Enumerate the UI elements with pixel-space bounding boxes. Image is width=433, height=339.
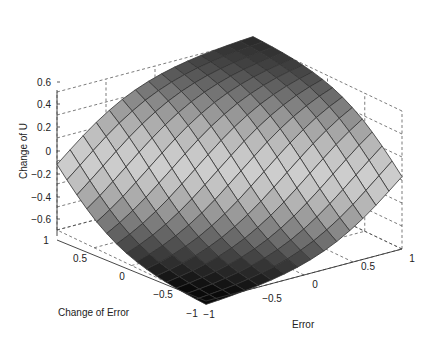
- x-tick-label: −0.5: [262, 293, 282, 304]
- z-tick-label: −0.4: [31, 192, 51, 203]
- z-tick-label: 0.2: [37, 122, 51, 133]
- surface-plot: −0.6−0.4−0.200.20.40.6−1−0.500.51−1−0.50…: [0, 0, 433, 339]
- x-tick-label: 1: [409, 253, 415, 264]
- z-tick-label: 0: [45, 146, 51, 157]
- y-tick-label: −0.5: [153, 289, 173, 300]
- y-axis-label: Change of Error: [58, 307, 130, 318]
- z-tick-label: −0.6: [31, 214, 51, 225]
- y-tick-label: −1: [186, 308, 198, 319]
- y-tick-label: 1: [43, 235, 49, 246]
- z-tick-label: 0.4: [37, 99, 51, 110]
- y-tick-label: 0: [119, 271, 125, 282]
- y-tick-label: 0.5: [73, 253, 87, 264]
- z-tick-label: −0.2: [31, 169, 51, 180]
- z-axis-label: Change of U: [18, 123, 29, 179]
- x-tick-label: 0: [312, 279, 318, 290]
- x-tick-label: 0.5: [361, 261, 375, 272]
- control-surface: [57, 37, 402, 305]
- z-tick-label: 0.6: [37, 77, 51, 88]
- x-tick-label: −1: [203, 309, 215, 320]
- x-axis-label: Error: [292, 319, 315, 330]
